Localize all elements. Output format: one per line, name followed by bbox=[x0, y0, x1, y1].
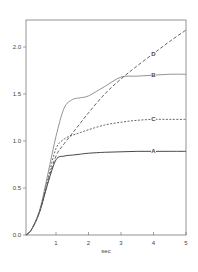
x-tick-label: 4 bbox=[152, 240, 156, 246]
x-tick-label: 2 bbox=[87, 240, 91, 246]
y-tick-label: 1.0 bbox=[13, 138, 22, 144]
y-tick-label: 0.0 bbox=[13, 232, 22, 238]
x-axis-label: sec bbox=[101, 248, 110, 254]
series-marker-a: A bbox=[151, 148, 156, 154]
y-axis: 0.00.51.01.52.0 bbox=[13, 44, 26, 238]
series-line-b bbox=[26, 74, 186, 235]
x-axis: 12345 bbox=[54, 232, 188, 246]
y-tick-label: 2.0 bbox=[13, 44, 22, 50]
x-tick-label: 1 bbox=[54, 240, 58, 246]
series-marker-b: B bbox=[151, 72, 156, 78]
series-lines bbox=[26, 30, 186, 235]
x-tick-label: 5 bbox=[184, 240, 188, 246]
y-tick-label: 0.5 bbox=[13, 185, 22, 191]
series-marker-c: C bbox=[151, 116, 156, 122]
line-chart: 0.00.51.01.52.0 12345 sec ABCD bbox=[0, 0, 198, 272]
plot-frame bbox=[26, 20, 186, 235]
series-marker-d: D bbox=[151, 51, 156, 57]
x-tick-label: 3 bbox=[119, 240, 123, 246]
series-markers: ABCD bbox=[151, 51, 156, 155]
series-line-d bbox=[26, 30, 186, 235]
y-tick-label: 1.5 bbox=[13, 91, 22, 97]
